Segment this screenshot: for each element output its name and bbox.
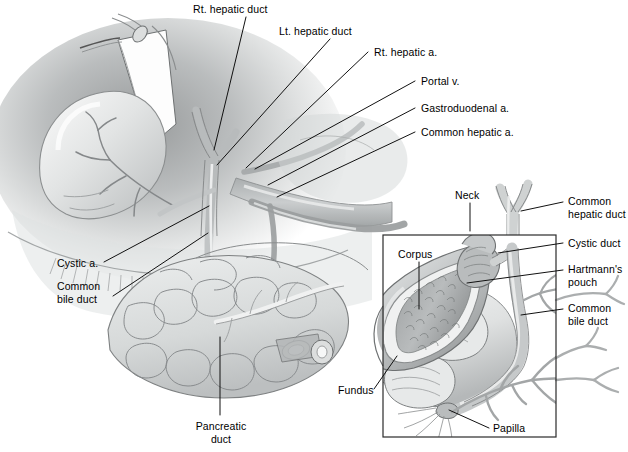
label-cystic-duct: Cystic duct [568, 237, 620, 250]
label-corpus: Corpus [398, 248, 432, 261]
anatomy-artwork [0, 0, 628, 452]
label-rt-hepatic-a: Rt. hepatic a. [374, 46, 437, 59]
label-common-bile-duct-inset: Common bile duct [568, 302, 611, 327]
label-neck: Neck [455, 189, 479, 202]
label-rt-hepatic-duct: Rt. hepatic duct [193, 3, 268, 16]
label-lt-hepatic-duct: Lt. hepatic duct [279, 25, 352, 38]
label-fundus: Fundus [338, 384, 374, 397]
label-hartmanns-pouch: Hartmann's pouch [568, 263, 622, 288]
label-common-hepatic-a: Common hepatic a. [421, 126, 514, 139]
label-portal-v: Portal v. [421, 75, 460, 88]
vessels-outside-box-right [556, 276, 624, 392]
label-gastroduodenal-a: Gastroduodenal a. [421, 102, 509, 115]
label-cystic-a: Cystic a. [57, 257, 98, 270]
leader-common-hepatic-duct [521, 202, 563, 211]
inset-contents [367, 232, 578, 442]
main-operative-view [0, 14, 407, 398]
illustration-canvas: Rt. hepatic duct Lt. hepatic duct Rt. he… [0, 0, 628, 452]
label-papilla: Papilla [493, 422, 525, 435]
label-pancreatic-duct: Pancreatic duct [188, 420, 254, 445]
label-common-hepatic-duct: Common hepatic duct [568, 195, 626, 220]
label-common-bile-duct-main: Common bile duct [57, 280, 100, 305]
